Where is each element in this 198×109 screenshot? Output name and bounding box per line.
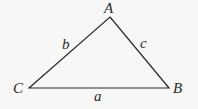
vertex-label-c: C [13, 80, 24, 96]
triangle-diagram: A B C a b c [0, 0, 198, 109]
vertex-label-b: B [173, 80, 182, 96]
triangle-abc [29, 17, 169, 88]
side-label-a: a [94, 88, 102, 104]
vertex-label-a: A [103, 0, 114, 16]
side-label-b: b [62, 36, 70, 52]
side-label-c: c [140, 35, 147, 51]
